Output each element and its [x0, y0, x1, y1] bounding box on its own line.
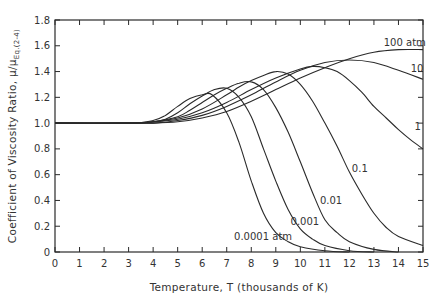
curve-label: 100 atm	[384, 37, 426, 48]
x-tick-label: 4	[150, 258, 156, 269]
x-tick-label: 3	[125, 258, 131, 269]
curve-label: 0.001	[291, 216, 320, 227]
y-tick-label: 1.6	[34, 40, 50, 51]
viscosity-ratio-chart: 012345678910111213141500.20.40.60.81.01.…	[0, 0, 440, 299]
y-tick-label: 1.4	[34, 66, 50, 77]
x-tick-label: 7	[224, 258, 230, 269]
y-tick-label: 0.8	[34, 143, 50, 154]
y-axis-title: Coefficient of Viscosity Ratio, μ/μEq.(2…	[6, 29, 21, 243]
x-tick-label: 11	[318, 258, 331, 269]
x-tick-label: 5	[174, 258, 180, 269]
x-tick-label: 9	[273, 258, 279, 269]
curve-label: 10	[411, 63, 424, 74]
y-tick-label: 0.4	[34, 195, 50, 206]
curve-100-atm	[55, 49, 423, 123]
curve-10-atm	[55, 60, 423, 123]
curve-label: 1	[414, 121, 420, 132]
x-tick-label: 1	[76, 258, 82, 269]
y-axis-title-subscript: Eq.(2-4)	[13, 29, 21, 59]
x-axis-title: Temperature, T (thousands of K)	[149, 281, 329, 293]
y-tick-label: 0	[44, 247, 50, 258]
x-tick-label: 2	[101, 258, 107, 269]
curves	[55, 49, 423, 252]
curve-1-atm	[55, 66, 423, 149]
x-tick-label: 8	[248, 258, 254, 269]
x-tick-label: 10	[294, 258, 307, 269]
y-tick-label: 1.8	[34, 15, 50, 26]
x-tick-label: 13	[368, 258, 381, 269]
x-tick-label: 12	[343, 258, 356, 269]
x-tick-label: 15	[417, 258, 430, 269]
y-tick-label: 1.2	[34, 92, 50, 103]
curve-0-0001-atm	[55, 93, 349, 252]
y-tick-label: 0.2	[34, 221, 50, 232]
y-axis-title-main: Coefficient of Viscosity Ratio, μ/μ	[6, 59, 18, 243]
y-tick-label: 1.0	[34, 118, 50, 129]
curve-label: 0.0001 atm	[234, 231, 292, 242]
x-tick-label: 6	[199, 258, 205, 269]
x-tick-label: 0	[52, 258, 58, 269]
y-tick-label: 0.6	[34, 169, 50, 180]
curve-label: 0.1	[352, 163, 368, 174]
curve-0-001-atm	[55, 88, 374, 252]
curve-label: 0.01	[320, 195, 342, 206]
axis-ticks	[55, 20, 423, 252]
plot-frame	[55, 20, 423, 252]
x-tick-label: 14	[392, 258, 405, 269]
